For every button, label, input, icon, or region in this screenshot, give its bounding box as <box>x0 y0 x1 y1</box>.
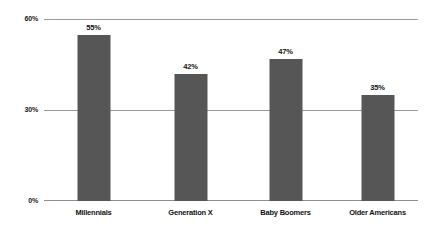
bar-group-generation-x: 42% <box>144 19 237 201</box>
bar-value-baby-boomers: 47% <box>278 47 292 56</box>
x-axis-label-millennials: Millennials <box>47 208 140 217</box>
x-axis-label-baby-boomers: Baby Boomers <box>239 208 332 217</box>
bar-baby-boomers <box>269 59 302 201</box>
bar-value-older-americans: 35% <box>370 83 384 92</box>
bar-value-generation-x: 42% <box>183 62 197 71</box>
y-axis-tick-30: 30% <box>0 106 38 113</box>
y-axis-tick-0: 0% <box>0 197 38 204</box>
x-axis-label-older-americans: Older Americans <box>331 208 424 217</box>
x-axis-label-generation-x: Generation X <box>144 208 237 217</box>
bar-group-baby-boomers: 47% <box>239 19 332 201</box>
bar-group-older-americans: 35% <box>331 19 424 201</box>
y-axis-tick-60: 60% <box>0 15 38 22</box>
bar-chart: 60% 30% 0% 55% 42% 47% 35% Millennials G… <box>0 0 440 238</box>
bar-older-americans <box>361 95 394 201</box>
bar-millennials <box>77 35 110 201</box>
bar-group-millennials: 55% <box>47 19 140 201</box>
bar-value-millennials: 55% <box>86 23 100 32</box>
bar-generation-x <box>174 74 207 201</box>
plot-area: 55% 42% 47% 35% <box>44 19 418 201</box>
